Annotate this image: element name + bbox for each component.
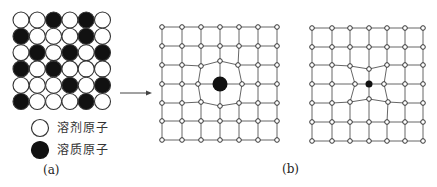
solvent-atom-node [160,138,165,143]
solvent-atom-node [199,25,204,30]
solvent-atom-node [237,44,242,49]
solvent-atom [46,94,62,110]
arrow [120,91,152,96]
solvent-atom-node [237,119,242,124]
solvent-atom-node [180,25,185,30]
solvent-atom-node [218,44,223,49]
solvent-atom-node [275,63,280,68]
large-solute-lattice [160,25,280,143]
solvent-atom-node [403,120,408,125]
solvent-atom-node [403,26,408,31]
solvent-atom-node [240,82,245,87]
solvent-atom-node [385,63,390,68]
solvent-atom-node [386,100,391,105]
legend-solvent-label: 溶剂原子 [57,122,109,134]
solvent-atom-node [385,26,390,31]
solvent-atom-node [421,45,426,50]
solvent-atom [46,77,62,93]
solvent-atom-node [256,25,261,30]
solvent-atom-node [236,63,241,68]
solvent-atom-node [180,119,185,124]
solvent-atom-node [367,139,372,144]
solvent-atom-node [403,139,408,144]
solvent-atom-node [310,82,315,87]
solvent-atom-node [160,101,165,106]
solvent-atom-node [310,26,315,31]
solvent-atom-node [180,82,185,87]
solvent-atom [78,61,94,77]
solvent-atom [95,61,111,77]
solvent-atom-node [218,25,223,30]
solvent-atom-node [275,138,280,143]
solvent-atom-node [330,26,335,31]
solvent-atom-node [353,82,358,87]
solute-atom [78,28,94,44]
solvent-atom-node [256,138,261,143]
solvent-atom-node [237,101,242,106]
solvent-atom-node [385,139,390,144]
solute-atom [46,61,62,77]
legend-solute-label: 溶质原子 [57,144,109,156]
solvent-atom-node [199,64,204,69]
solute-atom [78,12,94,28]
solvent-atom-node [348,64,353,69]
solvent-atom-node [421,82,426,87]
solvent-atom-node [160,119,165,124]
solvent-atom-node [275,25,280,30]
solute-atom-icon [32,142,49,159]
solvent-atom-node [421,63,426,68]
solvent-atom-node [348,139,353,144]
solvent-atom [29,28,45,44]
solvent-atom [62,12,78,28]
solvent-atom [62,28,78,44]
solvent-atom-node [199,100,204,105]
solvent-atom-node [310,45,315,50]
solvent-atom-node [330,45,335,50]
solute-atom-node [213,77,228,92]
solvent-atom-node [348,120,353,125]
panel-a-label: (a) [43,164,60,176]
solvent-atom-node [310,63,315,68]
solvent-atom [46,45,62,61]
solvent-atom-node [237,25,242,30]
solute-atom [62,45,78,61]
solvent-atom [62,61,78,77]
solvent-atom [95,28,111,44]
solvent-atom [62,94,78,110]
solvent-atom-node [160,82,165,87]
solute-atom [95,77,111,93]
solvent-atom-node [256,44,261,49]
solvent-atom-node [330,120,335,125]
solvent-atom-node [385,45,390,50]
solvent-atom-node [256,119,261,124]
solvent-atom-node [310,101,315,106]
solvent-atom-node [196,82,201,87]
solvent-atom-node [275,82,280,87]
solid-solution-grid [13,12,111,110]
solvent-atom-node [421,139,426,144]
solvent-atom [13,12,29,28]
solvent-atom [95,12,111,28]
solvent-atom-node [199,138,204,143]
solvent-atom-node [180,138,185,143]
solute-atom [13,61,29,77]
solvent-atom-node [367,45,372,50]
solvent-atom [13,45,29,61]
solvent-atom-node [348,100,353,105]
solvent-atom-node [199,119,204,124]
solvent-atom [29,94,45,110]
solvent-atom-node [330,63,335,68]
solvent-atom-node [348,45,353,50]
solvent-atom-node [330,82,335,87]
solvent-atom-node [403,45,408,50]
solvent-atom-node [330,139,335,144]
solvent-atom-node [385,120,390,125]
solvent-atom-node [199,44,204,49]
solvent-atom [78,45,94,61]
solute-atom [13,94,29,110]
solvent-atom [29,61,45,77]
solvent-atom-node [160,25,165,30]
solvent-atom-node [403,82,408,87]
solvent-atom-node [256,101,261,106]
solvent-atom-node [218,59,223,64]
